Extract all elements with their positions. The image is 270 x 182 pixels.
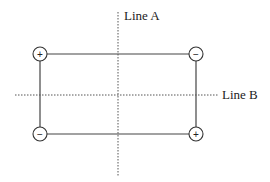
minus-sign: − xyxy=(193,49,199,60)
minus-sign: − xyxy=(37,129,43,140)
line-b-label: Line B xyxy=(222,87,258,102)
line-a-label: Line A xyxy=(124,8,160,23)
charge-bottom-left: − xyxy=(33,127,47,141)
charge-diagram: Line A Line B + − − + xyxy=(0,0,270,182)
charge-bottom-right: + xyxy=(189,127,203,141)
plus-sign: + xyxy=(37,49,43,60)
charge-top-left: + xyxy=(33,47,47,61)
plus-sign: + xyxy=(193,129,199,140)
charge-top-right: − xyxy=(189,47,203,61)
